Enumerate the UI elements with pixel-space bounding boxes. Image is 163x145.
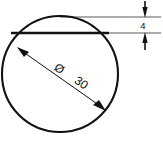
diameter-dimension-line bbox=[19, 49, 103, 108]
diameter-arrowhead-lower-right bbox=[93, 100, 106, 111]
diameter-arrowhead-upper-left bbox=[17, 47, 29, 57]
thickness-dimension-value: 4 bbox=[140, 20, 145, 31]
technical-drawing-canvas: 4 Ø 30 bbox=[0, 0, 163, 145]
diameter-symbol-icon: Ø bbox=[51, 60, 67, 77]
diameter-dimension-value: 30 bbox=[72, 73, 91, 92]
technical-drawing-svg: 4 Ø 30 bbox=[0, 0, 163, 145]
thickness-arrowhead-down-icon bbox=[142, 7, 147, 18]
